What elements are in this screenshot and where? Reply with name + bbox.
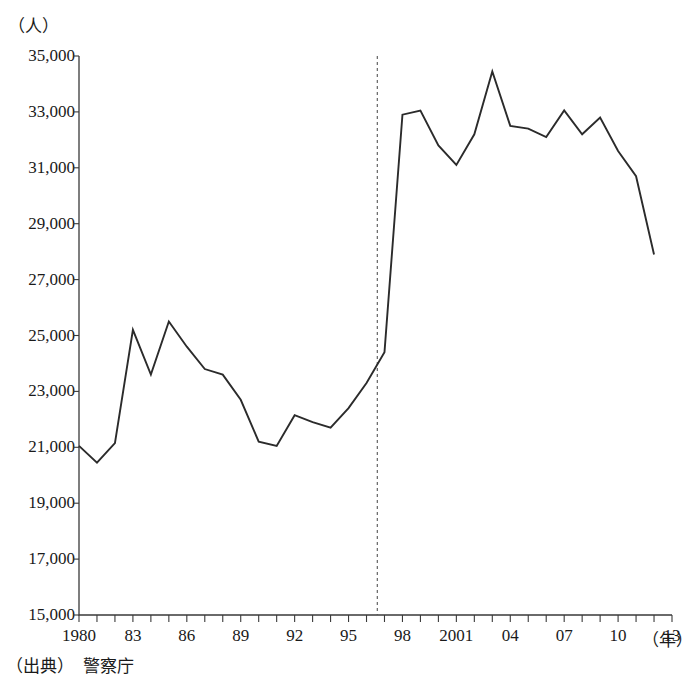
x-axis-tick-label: 1980 [62,626,96,646]
line-chart-plot [0,0,694,679]
x-axis-tick-label: 2001 [439,626,473,646]
source-note: （出典） 警察庁 [6,652,134,677]
x-axis-tick-label: 98 [394,626,411,646]
x-axis-tick-label: 92 [286,626,303,646]
chart-container: （人） 15,00017,00019,00021,00023,00025,000… [0,0,694,679]
x-axis-tick-label: 04 [502,626,519,646]
data-series-line [79,71,654,462]
chart-axes [79,56,672,615]
axis-lines [79,56,672,615]
x-axis-tick-label: 95 [340,626,357,646]
x-axis-tick-label: 07 [556,626,573,646]
x-axis-tick-label: 89 [232,626,249,646]
x-axis-tick-label: 10 [610,626,627,646]
x-axis-tick-label: 83 [124,626,141,646]
x-axis-tick-label: 86 [178,626,195,646]
x-axis-unit-label: （年） [642,626,693,651]
series-polyline [79,71,654,462]
